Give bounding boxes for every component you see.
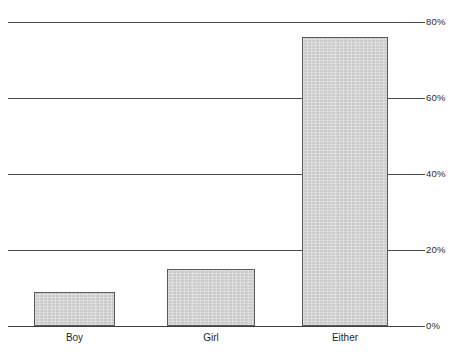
ytick-label-40: 40% — [426, 169, 446, 179]
ytick-label-20: 20% — [426, 245, 446, 255]
xtick-label-girl: Girl — [167, 332, 255, 344]
ytick-mark-40 — [417, 174, 425, 175]
gridline-80 — [8, 22, 417, 23]
xtick-label-either: Either — [302, 332, 388, 344]
plot-area — [8, 22, 417, 326]
ytick-mark-60 — [417, 98, 425, 99]
ytick-mark-80 — [417, 22, 425, 23]
ytick-label-60: 60% — [426, 93, 446, 103]
ytick-label-80: 80% — [426, 17, 446, 27]
axis-baseline — [8, 326, 417, 327]
ytick-mark-0 — [417, 326, 425, 327]
ytick-label-0: 0% — [426, 321, 440, 331]
bar-girl[interactable] — [167, 269, 255, 326]
bar-boy[interactable] — [34, 292, 115, 326]
ytick-mark-20 — [417, 250, 425, 251]
xtick-label-boy: Boy — [34, 332, 115, 344]
bar-either[interactable] — [302, 37, 388, 326]
bar-chart: 80% 60% 40% 20% 0% Boy Girl Either — [0, 0, 461, 360]
